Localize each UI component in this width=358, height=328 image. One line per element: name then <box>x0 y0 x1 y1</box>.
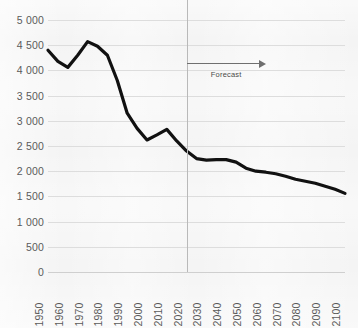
forecast-divider-line <box>187 0 188 272</box>
x-tick-label: 2010 <box>152 302 163 326</box>
y-tick-label: 2 500 <box>0 141 44 152</box>
x-tick-label: 2000 <box>133 302 144 326</box>
x-tick-label: 1960 <box>53 302 64 326</box>
y-tick-label: 1 000 <box>0 216 44 227</box>
x-tick-label: 1980 <box>93 302 104 326</box>
series-line-population <box>48 42 345 194</box>
x-tick-label: 1950 <box>34 302 45 326</box>
x-tick-label: 2090 <box>311 302 322 326</box>
y-tick-label: 4 500 <box>0 40 44 51</box>
x-tick-label: 2060 <box>251 302 262 326</box>
x-tick-label: 1970 <box>73 302 84 326</box>
x-tick-label: 2030 <box>192 302 203 326</box>
gridline <box>48 272 345 273</box>
y-tick-label: 500 <box>0 242 44 253</box>
x-tick-label: 2050 <box>232 302 243 326</box>
x-tick-label: 2040 <box>212 302 223 326</box>
x-axis-tick-labels: 1950196019701980199020002010202020302040… <box>48 276 345 326</box>
series-line-chart <box>48 20 345 272</box>
y-axis-tick-labels: 05001 0001 5002 0002 5003 0003 5004 0004… <box>0 20 44 272</box>
y-tick-label: 4 000 <box>0 65 44 76</box>
y-tick-label: 1 500 <box>0 191 44 202</box>
y-tick-label: 0 <box>0 267 44 278</box>
x-tick-label: 2020 <box>172 302 183 326</box>
y-tick-label: 2 000 <box>0 166 44 177</box>
plot-area: Forecast <box>48 20 345 272</box>
x-tick-label: 2080 <box>291 302 302 326</box>
y-tick-label: 3 500 <box>0 90 44 101</box>
y-tick-label: 3 000 <box>0 116 44 127</box>
y-tick-label: 5 000 <box>0 15 44 26</box>
chart-container: 05001 0001 5002 0002 5003 0003 5004 0004… <box>0 0 358 328</box>
x-tick-label: 2100 <box>331 302 342 326</box>
x-tick-label: 1990 <box>113 302 124 326</box>
x-tick-label: 2070 <box>271 302 282 326</box>
